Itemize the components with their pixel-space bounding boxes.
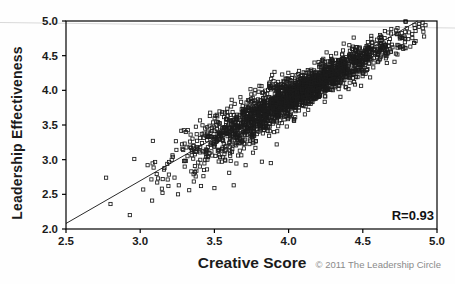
svg-text:2.0: 2.0 [42,223,58,235]
svg-text:4.5: 4.5 [355,235,372,247]
svg-text:3.0: 3.0 [132,235,148,247]
svg-text:2.5: 2.5 [42,188,59,200]
svg-text:3.0: 3.0 [42,154,58,166]
svg-text:4.0: 4.0 [281,235,297,247]
svg-text:5.0: 5.0 [429,235,445,247]
correlation-label: R=0.93 [392,208,434,223]
x-axis-ticks: 2.53.03.54.04.55.0 [58,229,445,247]
svg-text:3.5: 3.5 [42,119,59,131]
x-axis-title: Creative Score [198,254,307,272]
chart-canvas: 2.53.03.54.04.55.02.02.53.03.54.04.55.0 … [0,0,455,284]
svg-text:3.5: 3.5 [206,235,223,247]
svg-text:2.5: 2.5 [58,235,75,247]
scan-artifact-line [0,23,455,29]
y-axis-title: Leadership Effectiveness [9,46,25,220]
copyright-text: © 2011 The Leadership Circle [316,259,441,270]
scatter-points [105,20,428,217]
scatter-plot: 2.53.03.54.04.55.02.02.53.03.54.04.55.0 [0,0,455,284]
svg-text:4.5: 4.5 [42,50,59,62]
y-axis-ticks: 2.02.53.03.54.04.55.0 [42,15,66,235]
svg-text:5.0: 5.0 [42,15,58,27]
svg-text:4.0: 4.0 [42,84,58,96]
